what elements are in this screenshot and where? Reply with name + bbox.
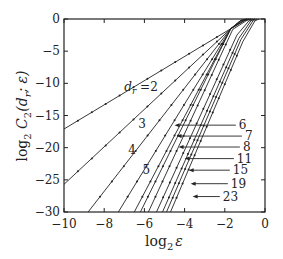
data-point	[202, 108, 204, 110]
data-point	[192, 104, 194, 106]
data-point	[168, 197, 170, 199]
data-point	[176, 197, 178, 199]
data-point	[176, 150, 178, 152]
x-axis-title: log2ε	[145, 233, 183, 252]
y-tick-label: −20	[35, 141, 60, 155]
data-series	[64, 19, 259, 212]
y-tick-label: −5	[42, 44, 60, 58]
data-point	[147, 135, 149, 137]
series-label: 15	[233, 163, 248, 177]
data-point	[157, 165, 159, 167]
data-point	[193, 139, 195, 141]
data-point	[119, 131, 121, 133]
data-point	[174, 61, 176, 63]
data-point	[215, 96, 217, 98]
data-point	[176, 167, 178, 169]
data-point	[196, 123, 198, 125]
data-point	[178, 182, 180, 184]
data-point	[207, 73, 209, 75]
data-point	[184, 168, 186, 170]
data-point	[218, 43, 220, 45]
data-point	[229, 49, 231, 51]
data-point	[105, 144, 107, 146]
data-point	[209, 93, 211, 95]
data-point	[166, 150, 168, 152]
y-tick-label: −10	[35, 76, 60, 90]
x-tick-label: −10	[51, 217, 76, 231]
data-point	[234, 53, 236, 55]
y-tick-label: −25	[35, 173, 60, 187]
data-point	[198, 89, 200, 91]
data-point	[212, 112, 214, 114]
data-point	[216, 41, 218, 43]
series-label: dr =2	[124, 80, 158, 96]
arrow-head-icon	[191, 182, 196, 186]
data-point	[160, 93, 162, 95]
data-point	[185, 119, 187, 121]
data-point	[211, 58, 213, 60]
data-point	[182, 89, 184, 91]
data-point	[215, 58, 217, 60]
data-point	[194, 73, 196, 75]
series-label: 5	[142, 163, 150, 177]
data-point	[183, 104, 185, 106]
correlation-sum-chart: −10−8−6−4−200−5−10−15−20−25−30 dr =23456…	[0, 0, 283, 259]
data-point	[136, 180, 138, 182]
data-point	[202, 73, 204, 75]
data-point	[225, 44, 227, 46]
y-axis-title: log2 C2(dr; ε)	[14, 70, 33, 161]
series-line-dr-4	[88, 19, 247, 212]
data-point	[161, 181, 163, 183]
data-point	[170, 104, 172, 106]
data-point	[188, 53, 190, 55]
data-point	[222, 64, 224, 66]
data-point	[181, 168, 183, 170]
data-point	[169, 165, 171, 167]
y-tick-label: −30	[35, 205, 60, 219]
data-point	[155, 150, 157, 152]
data-point	[227, 67, 229, 69]
data-point	[211, 74, 213, 76]
data-point	[91, 111, 93, 113]
data-point	[172, 197, 174, 199]
data-point	[160, 69, 162, 71]
data-point	[232, 52, 234, 54]
data-point	[105, 103, 107, 105]
data-point	[189, 137, 191, 139]
data-point	[221, 82, 223, 84]
x-tick-label: −6	[136, 217, 154, 231]
x-tick-label: 0	[261, 217, 269, 231]
series-label: 4	[128, 143, 136, 157]
data-point	[212, 95, 214, 97]
data-point	[219, 81, 221, 83]
data-point	[202, 54, 204, 56]
data-point	[154, 180, 156, 182]
data-point	[225, 66, 227, 68]
data-point	[162, 196, 164, 198]
data-point	[162, 165, 164, 167]
y-tick-label: 0	[52, 12, 60, 26]
data-point	[190, 154, 192, 156]
data-point	[230, 69, 232, 71]
data-point	[158, 119, 160, 121]
data-point	[99, 196, 101, 198]
data-point	[77, 170, 79, 172]
data-point	[188, 67, 190, 69]
data-point	[141, 196, 143, 198]
data-point	[123, 165, 125, 167]
data-point	[202, 44, 204, 46]
data-point	[200, 140, 202, 142]
data-point	[182, 152, 184, 154]
x-tick-label: −4	[176, 217, 194, 231]
x-tick-label: −8	[95, 217, 113, 231]
data-point	[111, 180, 113, 182]
data-point	[146, 105, 148, 107]
data-point	[149, 180, 151, 182]
data-point	[224, 83, 226, 85]
data-point	[182, 183, 184, 185]
data-point	[77, 120, 79, 122]
data-point	[190, 104, 192, 106]
data-point	[216, 36, 218, 38]
data-point	[192, 89, 194, 91]
data-point	[147, 196, 149, 198]
